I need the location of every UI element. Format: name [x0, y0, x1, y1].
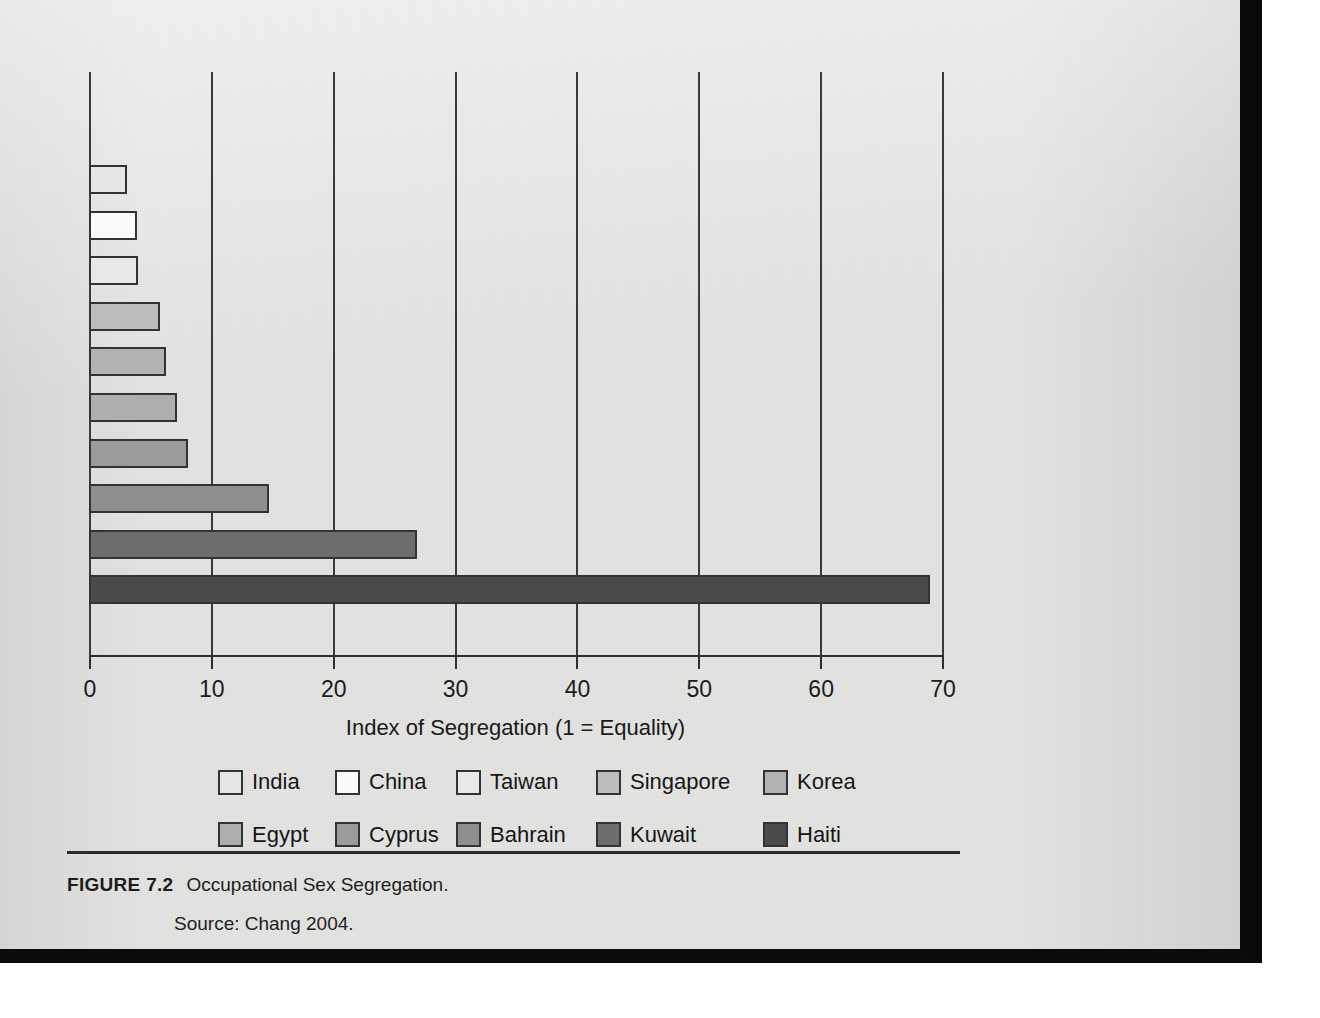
gridline-70	[942, 72, 944, 655]
bar-kuwait	[89, 530, 417, 559]
gridline-30	[455, 72, 457, 655]
tick-label-40: 40	[547, 676, 607, 703]
legend-swatch-china	[335, 770, 360, 795]
legend-swatch-cyprus	[335, 822, 360, 847]
gridline-50	[698, 72, 700, 655]
caption-divider-rule	[67, 851, 960, 854]
page-paper: 010203040506070 Index of Segregation (1 …	[0, 0, 1240, 949]
tick-mark-70	[942, 655, 944, 669]
legend-swatch-haiti	[763, 822, 788, 847]
tick-label-30: 30	[426, 676, 486, 703]
tick-label-70: 70	[913, 676, 973, 703]
figure-title: Occupational Sex Segregation.	[186, 874, 448, 895]
legend-swatch-singapore	[596, 770, 621, 795]
figure-container: 010203040506070 Index of Segregation (1 …	[0, 0, 1240, 949]
tick-label-10: 10	[182, 676, 242, 703]
tick-mark-40	[576, 655, 578, 669]
gridline-20	[333, 72, 335, 655]
legend-item-haiti[interactable]: Haiti	[763, 822, 841, 848]
legend-label-cyprus: Cyprus	[369, 822, 439, 848]
legend-row-1: IndiaChinaTaiwanSingaporeKorea	[218, 766, 838, 798]
gridline-60	[820, 72, 822, 655]
bar-korea	[89, 347, 166, 376]
legend-item-bahrain[interactable]: Bahrain	[456, 822, 566, 848]
legend-label-bahrain: Bahrain	[490, 822, 566, 848]
tick-label-50: 50	[669, 676, 729, 703]
legend-swatch-korea	[763, 770, 788, 795]
tick-mark-20	[333, 655, 335, 669]
legend-item-singapore[interactable]: Singapore	[596, 769, 730, 795]
legend-item-taiwan[interactable]: Taiwan	[456, 769, 558, 795]
bar-cyprus	[89, 439, 188, 468]
legend-item-china[interactable]: China	[335, 769, 426, 795]
legend-label-taiwan: Taiwan	[490, 769, 558, 795]
tick-label-20: 20	[304, 676, 364, 703]
bar-haiti	[89, 575, 930, 604]
legend-swatch-egypt	[218, 822, 243, 847]
caption-title-line: FIGURE 7.2Occupational Sex Segregation.	[67, 874, 967, 896]
tick-mark-60	[820, 655, 822, 669]
legend-label-haiti: Haiti	[797, 822, 841, 848]
legend-swatch-kuwait	[596, 822, 621, 847]
figure-caption: FIGURE 7.2Occupational Sex Segregation. …	[67, 874, 967, 935]
legend-swatch-taiwan	[456, 770, 481, 795]
legend-item-korea[interactable]: Korea	[763, 769, 856, 795]
legend-label-china: China	[369, 769, 426, 795]
tick-mark-50	[698, 655, 700, 669]
bar-bahrain	[89, 484, 269, 513]
bar-china	[89, 211, 137, 240]
legend-item-cyprus[interactable]: Cyprus	[335, 822, 439, 848]
tick-mark-0	[89, 655, 91, 669]
legend-label-egypt: Egypt	[252, 822, 308, 848]
legend-swatch-india	[218, 770, 243, 795]
chart-legend: IndiaChinaTaiwanSingaporeKoreaEgyptCypru…	[218, 766, 838, 836]
tick-mark-30	[455, 655, 457, 669]
figure-source: Source: Chang 2004.	[174, 913, 967, 935]
tick-mark-10	[211, 655, 213, 669]
legend-item-india[interactable]: India	[218, 769, 300, 795]
legend-item-egypt[interactable]: Egypt	[218, 822, 308, 848]
figure-number: FIGURE 7.2	[67, 874, 173, 895]
bar-chart-plot-area: 010203040506070	[89, 72, 942, 655]
legend-label-india: India	[252, 769, 300, 795]
bar-india	[89, 165, 127, 194]
legend-label-kuwait: Kuwait	[630, 822, 696, 848]
x-axis-line	[89, 655, 942, 657]
gridline-10	[211, 72, 213, 655]
legend-label-korea: Korea	[797, 769, 856, 795]
legend-swatch-bahrain	[456, 822, 481, 847]
tick-label-60: 60	[791, 676, 851, 703]
bar-singapore	[89, 302, 160, 331]
legend-row-2: EgyptCyprusBahrainKuwaitHaiti	[218, 801, 838, 833]
tick-label-0: 0	[60, 676, 120, 703]
gridline-40	[576, 72, 578, 655]
x-axis-label: Index of Segregation (1 = Equality)	[89, 715, 942, 741]
legend-item-kuwait[interactable]: Kuwait	[596, 822, 696, 848]
scanned-book-page: 010203040506070 Index of Segregation (1 …	[0, 0, 1262, 963]
bar-egypt	[89, 393, 177, 422]
legend-label-singapore: Singapore	[630, 769, 730, 795]
bar-taiwan	[89, 256, 138, 285]
